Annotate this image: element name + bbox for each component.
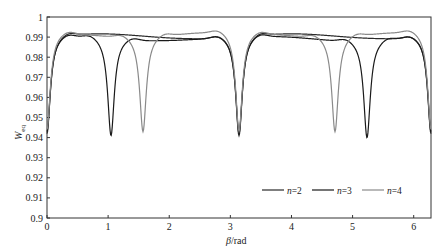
y-tick-label: 1 (38, 12, 43, 23)
x-axis-label: β/rad (225, 235, 247, 246)
x-tick-label: 0 (45, 221, 50, 232)
y-tick-label: 0.95 (26, 112, 44, 123)
y-tick-label: 0.91 (26, 192, 44, 203)
x-tick-label: 1 (106, 221, 111, 232)
y-tick-label: 0.96 (26, 92, 44, 103)
x-tick-label: 3 (228, 221, 233, 232)
series-line-n-2 (47, 33, 431, 135)
series-line-n-3 (47, 35, 431, 138)
x-tick-label: 4 (289, 221, 294, 232)
y-tick-label: 0.93 (26, 152, 44, 163)
legend-label: n=4 (387, 186, 402, 196)
y-tick-label: 0.99 (26, 32, 44, 43)
y-tick-label: 0.92 (26, 172, 44, 183)
legend: n=2n=3n=4 (262, 186, 402, 196)
plot-border (47, 17, 431, 218)
x-axis-label-unit: /rad (231, 235, 247, 246)
chart: 0.90.910.920.930.940.950.960.970.980.991… (0, 0, 444, 251)
x-tick-label: 6 (411, 221, 416, 232)
legend-label: n=2 (287, 186, 302, 196)
y-axis-label-sub: eq (19, 125, 27, 132)
y-tick-label: 0.97 (26, 72, 44, 83)
plot-frame (47, 17, 431, 218)
y-tick-label: 0.9 (31, 213, 44, 224)
y-tick-label: 0.94 (26, 132, 44, 143)
series-line-n-4 (47, 31, 431, 132)
x-tick-label: 5 (350, 221, 355, 232)
series-group (47, 31, 431, 138)
x-tick-label: 2 (167, 221, 172, 232)
y-axis: 0.90.910.920.930.940.950.960.970.980.991 (26, 12, 51, 224)
legend-label: n=3 (337, 186, 352, 196)
y-tick-label: 0.98 (26, 52, 44, 63)
